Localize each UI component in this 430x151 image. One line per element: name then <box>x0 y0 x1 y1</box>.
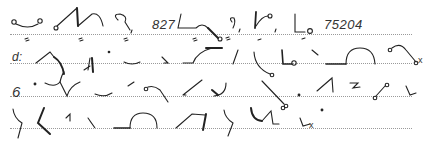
shorthand-page: 827 75204 d: 6 x x <box>0 0 430 151</box>
shorthand-strokes <box>0 0 430 151</box>
